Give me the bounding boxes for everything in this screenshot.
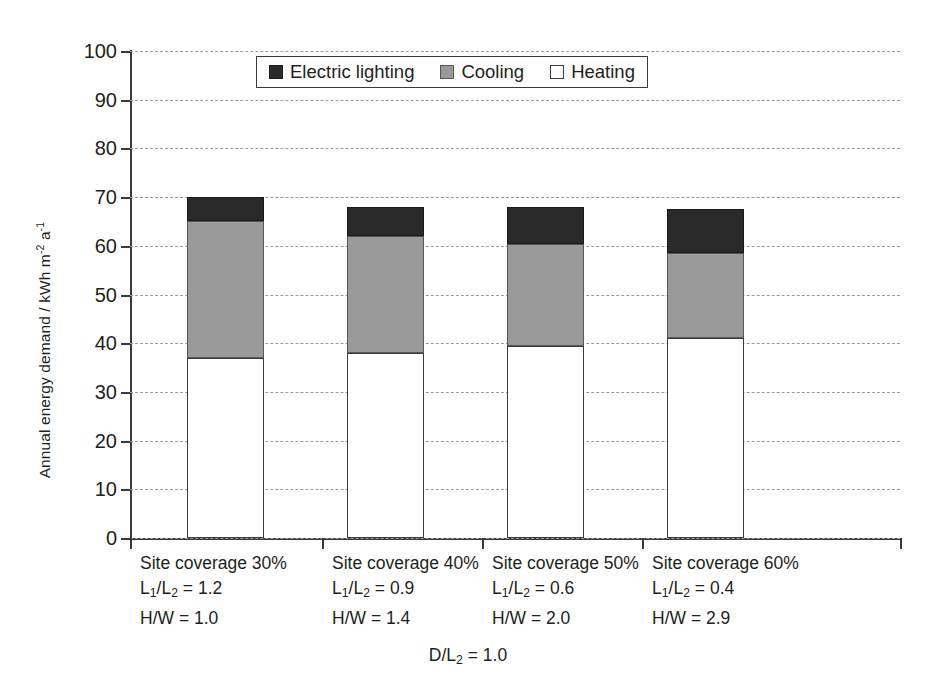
x-axis-tick-3 (482, 538, 484, 549)
ratio-value-3: = 0.6 (530, 578, 574, 598)
bar-segment-electric-lighting-2 (347, 207, 424, 236)
y-tick-60 (121, 246, 130, 248)
category-coverage-1: Site coverage 30% (140, 551, 350, 576)
legend-label-cooling: Cooling (461, 61, 524, 83)
energy-demand-stacked-bar-chart: Annual energy demand / kWh m-2 a-1 10090… (0, 0, 936, 695)
ratio-sub1-4: 1 (662, 586, 669, 600)
gridline-0 (130, 538, 900, 539)
ratio-mid-3: /L (509, 578, 524, 598)
chart-legend: Electric lightingCoolingHeating (256, 56, 648, 88)
y-tick-label-100: 100 (84, 40, 117, 63)
x-axis-tick-5 (900, 538, 902, 549)
bar-segment-heating-2 (347, 353, 424, 538)
legend-label-lighting: Electric lighting (290, 61, 414, 83)
y-tick-80 (121, 148, 130, 150)
legend-item-lighting: Electric lighting (269, 61, 414, 83)
legend-swatch-heating-icon (550, 65, 564, 79)
x-axis-tick-4 (642, 538, 644, 549)
y-tick-10 (121, 489, 130, 491)
ratio-sub2-2: 2 (363, 586, 370, 600)
ratio-prefix-1: L (140, 578, 150, 598)
y-tick-30 (121, 392, 130, 394)
y-tick-0 (121, 538, 130, 540)
y-axis-title-main: Annual energy demand / kWh m (36, 254, 53, 478)
ratio-value-4: = 0.4 (690, 578, 734, 598)
bar-group-2 (347, 51, 424, 538)
y-tick-label-90: 90 (95, 88, 117, 111)
ratio-value-1: = 1.2 (178, 578, 222, 598)
y-tick-90 (121, 100, 130, 102)
category-coverage-4: Site coverage 60% (652, 551, 862, 576)
bar-group-4 (667, 51, 744, 538)
plot-area: 1009080706050403020100 (130, 51, 900, 538)
legend-item-heating: Heating (550, 61, 635, 83)
bar-segment-electric-lighting-4 (667, 209, 744, 253)
ratio-mid-1: /L (157, 578, 172, 598)
category-height-width-1: H/W = 1.0 (140, 606, 350, 631)
category-label-4: Site coverage 60%L1/L2 = 0.4H/W = 2.9 (652, 551, 862, 631)
bar-segment-electric-lighting-1 (187, 197, 264, 221)
category-length-ratio-1: L1/L2 = 1.2 (140, 576, 350, 606)
ratio-sub1-1: 1 (150, 586, 157, 600)
ratio-sub1-2: 1 (342, 586, 349, 600)
y-tick-50 (121, 295, 130, 297)
ratio-value-2: = 0.9 (370, 578, 414, 598)
legend-swatch-lighting-icon (269, 65, 283, 79)
x-axis-tick-2 (322, 538, 324, 549)
ratio-mid-4: /L (669, 578, 684, 598)
caption-prefix: D/L (429, 645, 456, 665)
bar-group-1 (187, 51, 264, 538)
y-tick-label-40: 40 (95, 332, 117, 355)
bar-segment-electric-lighting-3 (507, 207, 584, 244)
x-axis-caption: D/L2 = 1.0 (0, 645, 936, 667)
y-tick-label-60: 60 (95, 234, 117, 257)
caption-subscript: 2 (456, 653, 463, 667)
y-tick-40 (121, 343, 130, 345)
x-axis-tick-1 (130, 538, 132, 549)
caption-suffix: = 1.0 (463, 645, 507, 665)
ratio-sub1-3: 1 (502, 586, 509, 600)
bar-segment-cooling-4 (667, 253, 744, 338)
legend-label-heating: Heating (571, 61, 635, 83)
y-tick-70 (121, 197, 130, 199)
y-tick-label-20: 20 (95, 429, 117, 452)
category-label-1: Site coverage 30%L1/L2 = 1.2H/W = 1.0 (140, 551, 350, 631)
ratio-prefix-3: L (492, 578, 502, 598)
category-height-width-4: H/W = 2.9 (652, 606, 862, 631)
bar-segment-cooling-3 (507, 244, 584, 345)
y-tick-label-70: 70 (95, 186, 117, 209)
category-length-ratio-4: L1/L2 = 0.4 (652, 576, 862, 606)
ratio-sub2-1: 2 (171, 586, 178, 600)
bar-segment-cooling-1 (187, 221, 264, 357)
y-axis-title-mid: a (36, 231, 53, 244)
bar-group-3 (507, 51, 584, 538)
ratio-sub2-3: 2 (523, 586, 530, 600)
bar-segment-heating-3 (507, 346, 584, 538)
bar-segment-heating-4 (667, 338, 744, 538)
y-axis-title-sup-area: -2 (34, 245, 46, 255)
bar-segment-heating-1 (187, 358, 264, 538)
ratio-prefix-4: L (652, 578, 662, 598)
bar-segment-cooling-2 (347, 236, 424, 353)
legend-swatch-cooling-icon (440, 65, 454, 79)
y-tick-label-30: 30 (95, 380, 117, 403)
y-tick-100 (121, 51, 130, 53)
y-tick-label-10: 10 (95, 478, 117, 501)
legend-item-cooling: Cooling (440, 61, 524, 83)
ratio-prefix-2: L (332, 578, 342, 598)
y-tick-label-80: 80 (95, 137, 117, 160)
y-tick-label-50: 50 (95, 283, 117, 306)
y-axis-title-sup-annum: -1 (34, 222, 46, 232)
y-axis-title: Annual energy demand / kWh m-2 a-1 (34, 140, 54, 560)
ratio-sub2-4: 2 (683, 586, 690, 600)
y-tick-20 (121, 441, 130, 443)
y-tick-label-0: 0 (106, 527, 117, 550)
ratio-mid-2: /L (349, 578, 364, 598)
